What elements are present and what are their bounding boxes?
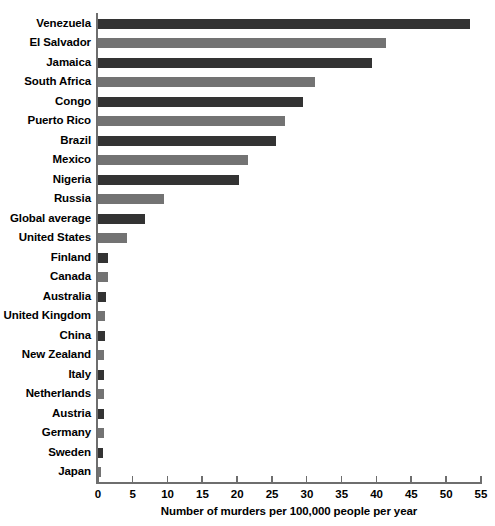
bar bbox=[98, 409, 104, 419]
bar-row: Global average bbox=[0, 209, 495, 229]
bar-row: Italy bbox=[0, 365, 495, 385]
category-label: Venezuela bbox=[0, 17, 91, 30]
bar-row: Canada bbox=[0, 268, 495, 288]
bar bbox=[98, 38, 386, 48]
category-label: Austria bbox=[0, 407, 91, 420]
bar bbox=[98, 331, 105, 341]
category-label: Finland bbox=[0, 251, 91, 264]
category-label: Russia bbox=[0, 192, 91, 205]
category-label: United Kingdom bbox=[0, 309, 91, 322]
x-tick-label: 40 bbox=[357, 487, 397, 501]
bar bbox=[98, 194, 164, 204]
bar-row: Australia bbox=[0, 287, 495, 307]
bar bbox=[98, 292, 106, 302]
bar bbox=[98, 467, 101, 477]
bar-row: Austria bbox=[0, 404, 495, 424]
x-tick-label: 55 bbox=[461, 487, 495, 501]
category-label: Brazil bbox=[0, 134, 91, 147]
bar-row: Russia bbox=[0, 190, 495, 210]
category-label: Jamaica bbox=[0, 56, 91, 69]
bar-row: Jamaica bbox=[0, 53, 495, 73]
bar bbox=[98, 370, 104, 380]
category-label: Puerto Rico bbox=[0, 114, 91, 127]
bar-row: Japan bbox=[0, 463, 495, 483]
x-tick-label: 20 bbox=[217, 487, 257, 501]
bar bbox=[98, 272, 108, 282]
category-label: Nigeria bbox=[0, 173, 91, 186]
bar-row: Venezuela bbox=[0, 14, 495, 34]
category-label: Netherlands bbox=[0, 387, 91, 400]
bar bbox=[98, 350, 104, 360]
x-tick-label: 15 bbox=[182, 487, 222, 501]
x-tick-label: 0 bbox=[78, 487, 118, 501]
bar-row: China bbox=[0, 326, 495, 346]
bar-row: Brazil bbox=[0, 131, 495, 151]
bar bbox=[98, 77, 315, 87]
bar bbox=[98, 253, 108, 263]
x-tick-label: 45 bbox=[391, 487, 431, 501]
x-tick-label: 35 bbox=[322, 487, 362, 501]
bar bbox=[98, 389, 104, 399]
bar bbox=[98, 136, 276, 146]
bar bbox=[98, 448, 103, 458]
bar-row: El Salvador bbox=[0, 34, 495, 54]
bar-row: United Kingdom bbox=[0, 307, 495, 327]
bar bbox=[98, 311, 105, 321]
category-label: New Zealand bbox=[0, 348, 91, 361]
category-label: China bbox=[0, 329, 91, 342]
x-tick-label: 10 bbox=[148, 487, 188, 501]
category-label: United States bbox=[0, 231, 91, 244]
bar-row: Sweden bbox=[0, 443, 495, 463]
category-label: Japan bbox=[0, 465, 91, 478]
category-label: Germany bbox=[0, 426, 91, 439]
bar bbox=[98, 97, 303, 107]
bar-row: Nigeria bbox=[0, 170, 495, 190]
x-tick-label: 30 bbox=[287, 487, 327, 501]
bar-row: Netherlands bbox=[0, 385, 495, 405]
x-axis-title: Number of murders per 100,000 people per… bbox=[97, 505, 481, 517]
bar bbox=[98, 116, 285, 126]
category-label: Global average bbox=[0, 212, 91, 225]
bar-row: Mexico bbox=[0, 151, 495, 171]
bar-row: South Africa bbox=[0, 73, 495, 93]
x-axis-line bbox=[96, 482, 482, 484]
category-label: Australia bbox=[0, 290, 91, 303]
bar bbox=[98, 175, 239, 185]
bar bbox=[98, 214, 145, 224]
bar-row: Germany bbox=[0, 424, 495, 444]
bar-row: Finland bbox=[0, 248, 495, 268]
category-label: Mexico bbox=[0, 153, 91, 166]
category-label: El Salvador bbox=[0, 36, 91, 49]
category-label: Congo bbox=[0, 95, 91, 108]
category-label: Italy bbox=[0, 368, 91, 381]
bar bbox=[98, 58, 372, 68]
category-label: South Africa bbox=[0, 75, 91, 88]
bar-rows: VenezuelaEl SalvadorJamaicaSouth AfricaC… bbox=[0, 14, 495, 482]
x-tick-label: 25 bbox=[252, 487, 292, 501]
bar-row: United States bbox=[0, 229, 495, 249]
bar-row: Puerto Rico bbox=[0, 112, 495, 132]
category-label: Sweden bbox=[0, 446, 91, 459]
bar bbox=[98, 19, 470, 29]
bar-row: Congo bbox=[0, 92, 495, 112]
category-label: Canada bbox=[0, 270, 91, 283]
bar bbox=[98, 233, 127, 243]
murder-rate-bar-chart: VenezuelaEl SalvadorJamaicaSouth AfricaC… bbox=[0, 0, 495, 526]
bar-row: New Zealand bbox=[0, 346, 495, 366]
bar bbox=[98, 155, 248, 165]
x-tick-label: 50 bbox=[426, 487, 466, 501]
x-tick-label: 5 bbox=[113, 487, 153, 501]
bar bbox=[98, 428, 104, 438]
